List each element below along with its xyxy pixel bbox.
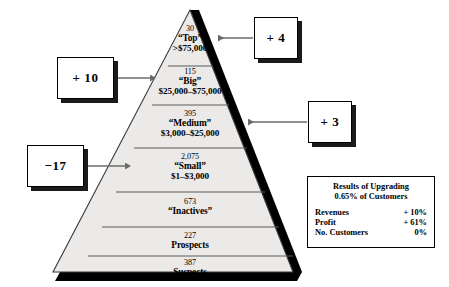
callout-big: + 10 <box>57 57 114 99</box>
callout-medium: + 3 <box>308 101 352 143</box>
table-row: Profit + 61% <box>315 218 427 228</box>
results-metric-value: + 61% <box>392 218 427 228</box>
tier-range: $1–$3,000 <box>132 172 248 182</box>
results-metric-label: Profit <box>315 218 392 228</box>
pyramid-tier-big: 115 “Big” $25,000–$75,000 <box>130 68 250 96</box>
pyramid-tier-medium: 395 “Medium” $3,000–$25,000 <box>130 110 250 138</box>
tier-name: Suspects <box>135 268 245 278</box>
tier-range: $25,000–$75,000 <box>130 87 250 97</box>
pyramid-tier-top: 30 “Top” >$75,000 <box>150 25 230 53</box>
pyramid-tier-prospects: 227 Prospects <box>135 232 245 251</box>
results-metric-value: 0% <box>392 228 427 238</box>
results-metric-label: Revenues <box>315 208 392 218</box>
tier-range: >$75,000 <box>150 44 230 54</box>
results-metric-label: No. Customers <box>315 228 392 238</box>
results-metric-value: + 10% <box>392 208 427 218</box>
pyramid-tier-suspects: 387 Suspects <box>135 259 245 278</box>
tier-range: $3,000–$25,000 <box>130 129 250 139</box>
results-table-title: Results of Upgrading 0.65% of Customers <box>315 182 427 203</box>
callout-top: + 4 <box>254 17 298 59</box>
table-row: Revenues + 10% <box>315 208 427 218</box>
pyramid-tier-inactives: 673 “Inactives” <box>135 198 245 217</box>
results-title-line2: 0.65% of Customers <box>335 192 408 201</box>
results-metrics-table: Revenues + 10% Profit + 61% No. Customer… <box>315 208 427 239</box>
table-row: No. Customers 0% <box>315 228 427 238</box>
callout-small: −17 <box>27 145 84 187</box>
customer-value-pyramid-diagram: 30 “Top” >$75,000 115 “Big” $25,000–$75,… <box>0 0 449 287</box>
tier-name: “Inactives” <box>135 207 245 217</box>
results-table: Results of Upgrading 0.65% of Customers … <box>307 176 435 248</box>
results-title-line1: Results of Upgrading <box>333 182 409 191</box>
pyramid-tier-small: 2,075 “Small” $1–$3,000 <box>132 153 248 181</box>
tier-name: Prospects <box>135 241 245 251</box>
